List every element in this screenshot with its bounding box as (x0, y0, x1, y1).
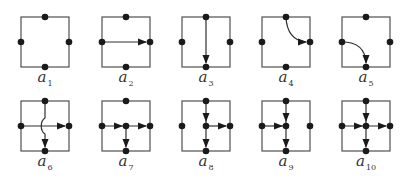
cell-label: a8 (182, 153, 230, 169)
node-right (307, 123, 314, 130)
cell-a2: a2 (102, 17, 150, 83)
cell-label: a6 (21, 153, 69, 169)
cell-frame (21, 17, 69, 67)
label-symbol: a (198, 152, 207, 170)
arrow-down-icon (363, 55, 370, 64)
cell-a6: a6 (21, 101, 69, 167)
cell-a5-graphic (342, 17, 390, 67)
label-subscript: 5 (368, 79, 373, 88)
arrow-down-icon (283, 139, 290, 148)
cell-a6-graphic (21, 101, 69, 151)
cell-label: a9 (262, 153, 310, 169)
label-subscript: 1 (47, 79, 52, 88)
cell-a5: a5 (342, 17, 390, 83)
node-center (203, 123, 210, 130)
arrow-down-icon (203, 113, 210, 122)
node-top (283, 14, 290, 21)
figure: a1 a2 a3 (0, 0, 410, 178)
arrow-right-icon (114, 123, 123, 130)
node-right (227, 39, 234, 46)
arrow-down-icon (283, 113, 290, 122)
node-left (18, 39, 25, 46)
label-subscript: 2 (128, 79, 133, 88)
node-top (363, 98, 370, 105)
node-center (283, 123, 290, 130)
cell-label: a1 (21, 69, 69, 85)
label-symbol: a (278, 68, 287, 86)
node-left (18, 123, 25, 130)
node-top (283, 98, 290, 105)
cell-a7-graphic (102, 101, 150, 151)
arrow-down-icon (363, 139, 370, 148)
label-subscript: 6 (47, 163, 52, 172)
cell-a10-graphic (342, 101, 390, 151)
label-subscript: 8 (208, 163, 213, 172)
arrow-down-icon (363, 113, 370, 122)
node-right (387, 123, 394, 130)
cell-a3: a3 (182, 17, 230, 83)
arrow-down-icon (42, 139, 49, 148)
cell-a2-graphic (102, 17, 150, 67)
label-symbol: a (118, 152, 127, 170)
node-top (363, 14, 370, 21)
node-right (227, 123, 234, 130)
edge-left-bottom-curve (342, 42, 366, 63)
label-subscript: 10 (366, 163, 376, 172)
cell-label: a10 (342, 153, 390, 169)
arrow-down-icon (123, 139, 130, 148)
arrow-right-icon (274, 123, 283, 130)
cell-a3-graphic (182, 17, 230, 67)
node-center (123, 123, 130, 130)
node-left (259, 39, 266, 46)
arrow-right-icon (354, 123, 363, 130)
cell-a9: a9 (262, 101, 310, 167)
cell-a10: a10 (342, 101, 390, 167)
arrow-right-icon (298, 39, 307, 46)
label-subscript: 4 (288, 79, 293, 88)
arrow-right-icon (138, 39, 147, 46)
node-top (123, 14, 130, 21)
cell-label: a7 (102, 153, 150, 169)
arrow-right-icon (57, 123, 66, 130)
label-subscript: 9 (288, 163, 293, 172)
node-right (66, 39, 73, 46)
cell-label: a3 (182, 69, 230, 85)
node-center (363, 123, 370, 130)
cell-label: a5 (342, 69, 390, 85)
label-subscript: 3 (208, 79, 213, 88)
node-left (339, 39, 346, 46)
label-symbol: a (356, 152, 365, 170)
node-right (147, 123, 154, 130)
label-symbol: a (198, 68, 207, 86)
label-symbol: a (118, 68, 127, 86)
arrow-right-icon (378, 123, 387, 130)
node-left (179, 39, 186, 46)
node-top (42, 14, 49, 21)
node-right (147, 39, 154, 46)
cell-a7: a7 (102, 101, 150, 167)
node-top (203, 14, 210, 21)
arrow-right-icon (138, 123, 147, 130)
arrow-down-icon (203, 139, 210, 148)
cell-a4-graphic (262, 17, 310, 67)
arrow-down-icon (203, 55, 210, 64)
node-top (203, 98, 210, 105)
cell-a9-graphic (262, 101, 310, 151)
node-left (99, 39, 106, 46)
node-left (179, 123, 186, 130)
node-left (259, 123, 266, 130)
cell-a1-graphic (21, 17, 69, 67)
cell-a8: a8 (182, 101, 230, 167)
node-left (339, 123, 346, 130)
node-top (42, 98, 49, 105)
cell-label: a4 (262, 69, 310, 85)
node-right (307, 39, 314, 46)
label-symbol: a (37, 68, 46, 86)
node-right (66, 123, 73, 130)
cell-a4: a4 (262, 17, 310, 83)
cell-a8-graphic (182, 101, 230, 151)
cell-label: a2 (102, 69, 150, 85)
node-right (387, 39, 394, 46)
node-left (99, 123, 106, 130)
edge-top-right-curve (286, 17, 306, 42)
